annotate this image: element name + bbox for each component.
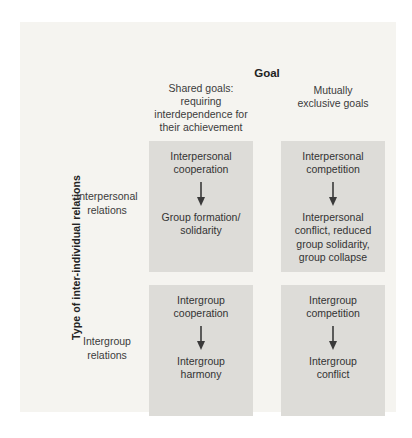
- down-arrow-icon: [326, 325, 340, 352]
- down-arrow-icon: [194, 325, 208, 352]
- cell-interpersonal-exclusive-goals: Interpersonal competition Interpersonal …: [281, 141, 385, 272]
- row-header-interpersonal-relations: Interpersonal relations: [68, 190, 146, 217]
- cell-cause-text: Interpersonal competition: [283, 150, 383, 177]
- cell-cause-text: Interpersonal cooperation: [151, 150, 251, 177]
- cell-interpersonal-shared-goals: Interpersonal cooperation Group formatio…: [149, 141, 253, 272]
- row-header-intergroup-relations: Intergroup relations: [68, 335, 146, 362]
- goal-axis-title: Goal: [149, 67, 385, 79]
- cell-intergroup-exclusive-goals: Intergroup competition Intergroup confli…: [281, 285, 385, 416]
- cell-effect-text: Intergroup conflict: [283, 355, 383, 382]
- down-arrow-icon: [194, 181, 208, 208]
- diagram-panel: Goal Shared goals: requiring interdepend…: [20, 22, 396, 412]
- cell-effect-text: Intergroup harmony: [151, 355, 251, 382]
- cell-cause-text: Intergroup competition: [283, 294, 383, 321]
- cell-effect-text: Group formation/ solidarity: [151, 211, 251, 238]
- column-header-mutually-exclusive-goals: Mutually exclusive goals: [277, 84, 389, 110]
- diagram-page: Goal Shared goals: requiring interdepend…: [0, 0, 412, 438]
- column-header-shared-goals: Shared goals: requiring interdependence …: [142, 82, 260, 134]
- down-arrow-icon: [326, 181, 340, 208]
- cell-cause-text: Intergroup cooperation: [151, 294, 251, 321]
- cell-effect-text: Interpersonal conflict, reduced group so…: [283, 211, 383, 265]
- cell-intergroup-shared-goals: Intergroup cooperation Intergroup harmon…: [149, 285, 253, 416]
